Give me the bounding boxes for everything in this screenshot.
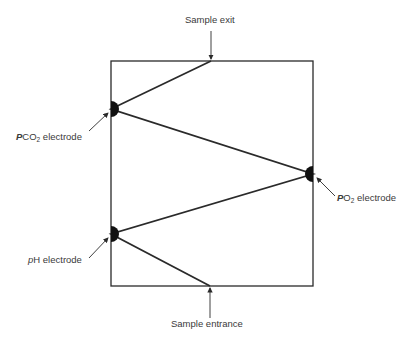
ph-pointer-arrow: [89, 238, 108, 258]
sample-entrance-label: Sample entrance: [171, 318, 243, 329]
ph-electrode-label: pH electrode: [28, 254, 82, 265]
sample-flow-path: [111, 61, 313, 286]
ph-suffix: electrode: [40, 254, 82, 265]
sample-exit-text: Sample exit: [185, 14, 235, 25]
po2-electrode-label: PO2 electrode: [337, 192, 396, 203]
po2-mid: O: [343, 192, 350, 203]
pco2-pointer-arrow: [89, 113, 108, 131]
diagram-canvas: [0, 0, 414, 342]
sample-entrance-text: Sample entrance: [171, 318, 243, 329]
po2-suffix: electrode: [354, 192, 396, 203]
sample-exit-label: Sample exit: [185, 14, 235, 25]
po2-pointer-arrow: [317, 178, 335, 196]
pco2-electrode-icon: [111, 101, 119, 117]
pco2-mid: CO: [22, 131, 36, 142]
ph-electrode-icon: [111, 226, 119, 242]
pco2-electrode-label: PCO2 electrode: [16, 131, 82, 142]
pco2-suffix: electrode: [40, 131, 82, 142]
po2-electrode-icon: [305, 166, 313, 182]
